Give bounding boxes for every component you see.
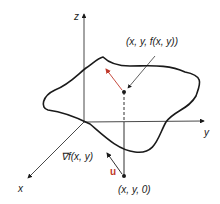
gradient-diagram: z y x (x, y, f(x, y)) (x, y, 0) ∇f(x, y)… [0,0,220,204]
base-point [122,174,126,178]
surface-point [122,90,126,94]
surface-direction-arrow [106,69,122,90]
label-pointer-arrow [128,56,155,88]
unit-vector-label: u [110,166,116,177]
y-axis-label: y [203,127,210,138]
surface-curve [43,57,199,152]
gradient-label: ∇f(x, y) [61,151,93,162]
y-axis [84,121,204,122]
z-axis-label: z [73,11,79,22]
x-axis [28,122,84,178]
surface-point-label: (x, y, f(x, y)) [126,36,178,47]
base-point-label: (x, y, 0) [118,184,151,195]
x-axis-label: x [17,183,24,194]
